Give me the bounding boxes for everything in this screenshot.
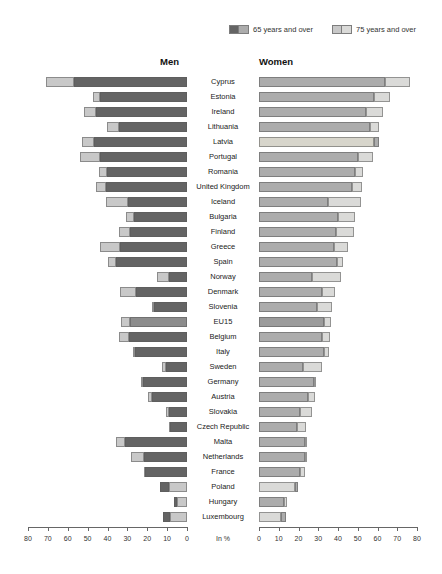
men-axis-tick-label: 60 [58, 535, 78, 542]
men-axis-tick [108, 527, 109, 531]
bar-women-cyprus [259, 77, 410, 87]
country-label-bulgaria: Bulgaria [187, 212, 259, 222]
unit-label: In % [187, 535, 259, 542]
bar-segment [96, 107, 187, 117]
bar-women-austria [259, 392, 315, 402]
men-axis-tick [187, 527, 188, 531]
bar-segment [305, 452, 307, 462]
bar-men-bulgaria [126, 212, 187, 222]
chart-plot-area: CyprusEstoniaIrelandLithuaniaLatviaPortu… [0, 0, 442, 574]
men-axis-tick-label: 80 [18, 535, 38, 542]
bar-segment [129, 332, 187, 342]
bar-segment [96, 182, 106, 192]
women-axis-tick-label: 50 [348, 535, 368, 542]
country-label-lithuania: Lithuania [187, 122, 259, 132]
bar-segment [130, 227, 187, 237]
bar-segment [324, 317, 331, 327]
bar-segment [259, 182, 352, 192]
bar-segment [322, 332, 330, 342]
country-label-cyprus: Cyprus [187, 77, 259, 87]
bar-segment [259, 512, 281, 522]
bar-segment [121, 317, 130, 327]
bar-women-united-kingdom [259, 182, 362, 192]
bar-segment [169, 272, 187, 282]
country-label-austria: Austria [187, 392, 259, 402]
men-axis-tick-label: 10 [157, 535, 177, 542]
country-label-belgium: Belgium [187, 332, 259, 342]
bar-segment [259, 302, 317, 312]
bar-men-hungary [174, 497, 187, 507]
bar-segment [126, 212, 134, 222]
bar-segment [259, 482, 295, 492]
bar-segment [154, 302, 187, 312]
women-axis-tick [417, 527, 418, 531]
bar-segment [284, 497, 287, 507]
bar-men-lithuania [107, 122, 187, 132]
bar-segment [120, 242, 187, 252]
bar-segment [259, 92, 374, 102]
men-axis-tick-label: 40 [98, 535, 118, 542]
bar-segment [116, 437, 125, 447]
bar-segment [259, 212, 338, 222]
bar-men-slovakia [166, 407, 187, 417]
bar-segment [366, 107, 384, 117]
bar-segment [157, 272, 169, 282]
bar-men-united-kingdom [96, 182, 187, 192]
bar-men-greece [100, 242, 187, 252]
bar-women-estonia [259, 92, 390, 102]
bar-segment [134, 212, 187, 222]
bar-segment [100, 92, 187, 102]
bar-segment [297, 422, 307, 432]
country-label-romania: Romania [187, 167, 259, 177]
bar-men-denmark [120, 287, 187, 297]
bar-men-cyprus [46, 77, 187, 87]
bar-segment [336, 227, 354, 237]
country-label-united-kingdom: United Kingdom [187, 182, 259, 192]
men-axis-tick [68, 527, 69, 531]
bar-women-bulgaria [259, 212, 355, 222]
country-label-netherlands: Netherlands [187, 452, 259, 462]
bar-segment [143, 377, 187, 387]
bar-segment [337, 257, 343, 267]
bar-men-portugal [80, 152, 187, 162]
women-axis-tick-label: 80 [407, 535, 427, 542]
bar-segment [259, 287, 322, 297]
bar-segment [374, 137, 380, 147]
bar-segment [259, 362, 303, 372]
bar-women-greece [259, 242, 348, 252]
country-label-norway: Norway [187, 272, 259, 282]
bar-segment [108, 257, 117, 267]
bar-men-slovenia [152, 302, 187, 312]
bar-segment [128, 197, 187, 207]
bar-women-portugal [259, 152, 373, 162]
bar-segment [308, 392, 315, 402]
country-label-poland: Poland [187, 482, 259, 492]
bar-men-norway [157, 272, 187, 282]
men-axis-tick-label: 20 [137, 535, 157, 542]
bar-men-poland [160, 482, 187, 492]
women-axis-tick [358, 527, 359, 531]
bar-segment [352, 182, 362, 192]
bar-segment [46, 77, 74, 87]
bar-men-iceland [106, 197, 187, 207]
bar-segment [300, 407, 312, 417]
country-label-luxembourg: Luxembourg [187, 512, 259, 522]
bar-segment [355, 167, 363, 177]
bar-segment [74, 77, 187, 87]
bar-segment [119, 122, 187, 132]
bar-men-romania [99, 167, 187, 177]
bar-segment [281, 512, 286, 522]
bar-men-ireland [84, 107, 187, 117]
women-axis-tick-label: 20 [289, 535, 309, 542]
bar-segment [93, 92, 100, 102]
bar-segment [259, 167, 355, 177]
country-label-estonia: Estonia [187, 92, 259, 102]
bar-segment [259, 197, 328, 207]
bar-segment [107, 167, 187, 177]
bar-segment [259, 257, 337, 267]
bar-segment [259, 422, 297, 432]
bar-segment [144, 452, 187, 462]
country-label-slovenia: Slovenia [187, 302, 259, 312]
bar-men-luxembourg [163, 512, 187, 522]
bar-women-ireland [259, 107, 383, 117]
